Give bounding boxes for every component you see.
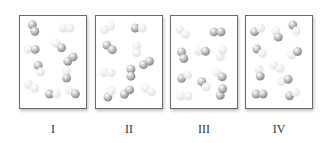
diatomic-molecule [250,24,265,36]
diatomic-molecule [176,25,190,38]
light-atom [138,24,147,33]
molecules-panel-iv [246,16,312,108]
panel-label-i: I [19,122,87,137]
dark-atom [57,43,66,52]
dark-atom [62,74,71,83]
light-atom [256,24,265,33]
diatomic-molecule [216,46,227,61]
panel-i [19,15,87,109]
diatomic-molecule [216,84,227,99]
diatomic-molecule [126,65,135,81]
light-atom [218,46,227,55]
diatomic-molecule [287,47,302,59]
diatomic-molecule [132,41,141,57]
diatomic-molecule [255,65,265,81]
diatomic-molecule [288,21,300,36]
molecules-panel-iii [171,16,237,108]
panel-ii [95,15,163,109]
diatomic-molecule [28,20,39,35]
diatomic-molecule [252,45,266,58]
diatomic-molecule [100,68,116,77]
dark-atom [179,54,188,63]
diatomic-molecule [24,45,40,54]
diatomic-molecule [210,27,226,36]
dark-atom [108,45,117,54]
dark-atom [201,47,210,56]
dark-atom [274,33,283,42]
diatomic-molecule [102,41,116,54]
panel-iv [245,15,313,109]
diatomic-molecule [52,39,66,52]
dark-atom [256,72,265,81]
diatomic-molecule [59,24,75,33]
light-atom [132,48,141,57]
dark-atom [126,72,135,81]
diatomic-molecule [277,75,292,86]
diatomic-molecule [131,24,147,33]
dark-atom [218,84,227,93]
diatomic-molecule [212,68,226,81]
molecules-panel-ii [96,16,162,108]
dark-atom [218,72,227,81]
diatomic-molecule [141,84,156,96]
dark-atom [145,57,154,66]
light-atom [181,30,190,39]
diatomic-molecule [34,61,45,76]
diatomic-molecule [194,47,210,56]
dark-atom [69,52,78,61]
panel-label-iv: IV [245,122,313,137]
dark-atom [71,89,80,98]
light-atom [202,83,211,92]
diatomic-molecule [252,90,268,99]
diatomic-molecule [45,90,61,99]
dark-atom [284,75,293,84]
light-atom [66,24,75,33]
dark-atom [125,85,134,94]
molecules-panel-i [20,16,86,108]
light-atom [291,88,300,97]
diatomic-molecule [63,52,77,65]
diatomic-molecule [120,85,134,98]
light-atom [107,68,116,77]
diatomic-molecule [197,77,210,91]
light-atom [147,87,156,96]
light-atom [30,84,39,93]
diatomic-molecule [62,67,71,83]
diatomic-molecule [103,87,115,102]
dark-atom [31,45,40,54]
dark-atom [293,47,302,56]
light-atom [184,92,193,101]
light-atom [292,27,301,36]
diatomic-molecule [271,26,282,41]
diatomic-molecule [177,92,193,101]
diatomic-molecule [24,80,39,92]
light-atom [107,87,116,96]
diatomic-molecule [100,22,115,34]
diatomic-molecule [177,70,192,82]
light-atom [36,68,45,77]
dark-atom [30,27,39,36]
dark-atom [217,27,226,36]
diatomic-molecule [270,61,285,73]
panel-label-ii: II [95,122,163,137]
diatomic-molecule [177,47,188,62]
light-atom [106,22,115,31]
light-atom [276,64,285,73]
light-atom [258,49,267,58]
diatomic-molecule [65,86,80,98]
light-atom [183,70,192,79]
panel-iii [170,15,238,109]
light-atom [52,90,61,99]
dark-atom [259,90,268,99]
panel-label-iii: III [170,122,238,137]
diatomic-molecule [285,88,300,100]
diatomic-molecule [139,57,154,69]
